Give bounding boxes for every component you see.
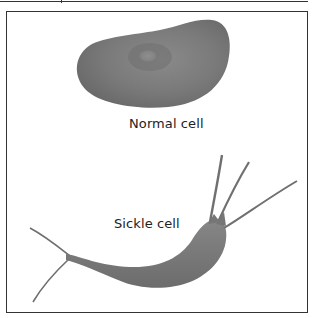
normal-cell-label: Normal cell [129,116,204,131]
cells-illustration [0,0,312,318]
normal-cell-icon [77,20,230,108]
sickle-cell-label: Sickle cell [114,216,180,231]
